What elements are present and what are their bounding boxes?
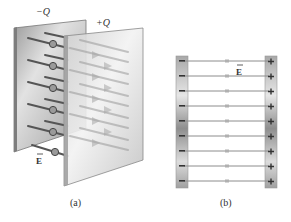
field-vector-label-b: E [236,67,242,77]
panel-b: E (b) [176,56,277,209]
caption-b: (b) [220,197,232,209]
positive-plate [64,28,143,186]
field-arrow-markers-b [225,60,229,183]
caption-a: (a) [70,197,81,209]
negative-charge-label: −Q [36,6,51,17]
positive-charge-label: +Q [96,17,111,28]
capacitor-field-diagram: −Q +Q E (a) [0,0,291,222]
field-vector-label-a: E [36,156,42,166]
panel-a: −Q +Q E (a) [14,6,143,209]
